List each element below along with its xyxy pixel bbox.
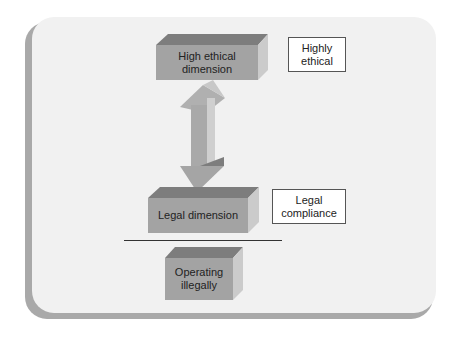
operating-illegally-line1: Operating [175, 266, 223, 279]
operating-illegally-line2: illegally [181, 279, 217, 292]
